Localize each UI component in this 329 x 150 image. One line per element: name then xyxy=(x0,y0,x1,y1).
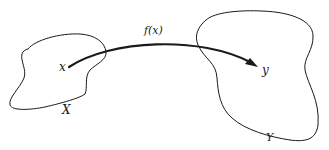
point-x-label: x xyxy=(59,61,66,73)
set-x-boundary xyxy=(10,34,106,109)
function-mapping-diagram: x y X Y f(x) xyxy=(0,0,329,150)
point-y-label: y xyxy=(262,64,269,76)
diagram-svg xyxy=(0,0,329,150)
set-x-label: X xyxy=(62,104,71,116)
mapping-arrow xyxy=(69,44,252,67)
arrow-label: f(x) xyxy=(144,25,163,36)
set-y-boundary xyxy=(196,11,318,141)
set-y-label: Y xyxy=(266,132,273,143)
